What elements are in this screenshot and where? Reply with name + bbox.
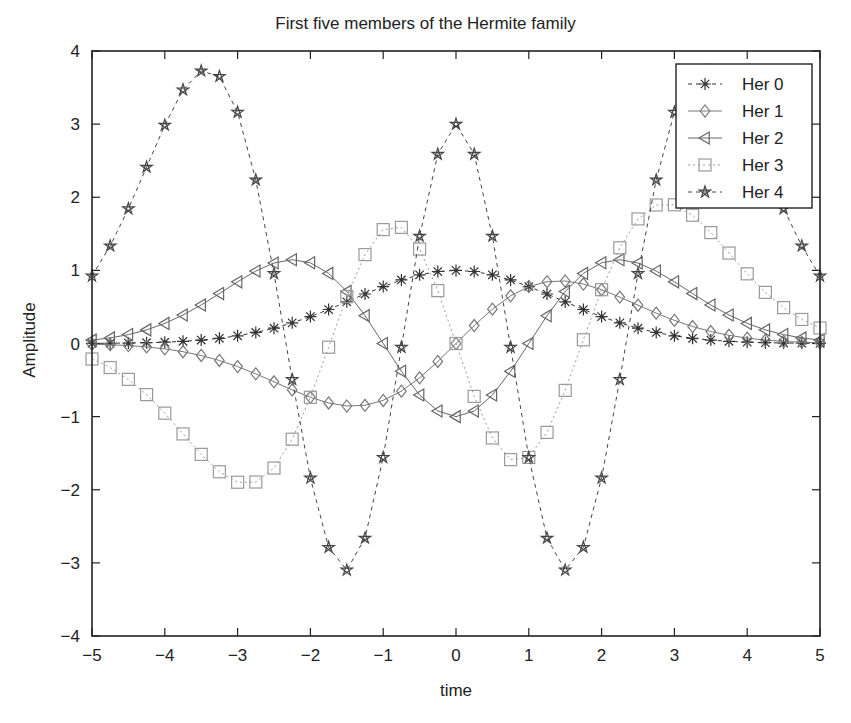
y-tick-label: −4 xyxy=(61,627,80,646)
x-tick-label: −1 xyxy=(374,646,393,665)
y-tick-label: 4 xyxy=(71,42,80,61)
x-tick-label: −3 xyxy=(228,646,247,665)
legend-label: Her 3 xyxy=(742,156,784,175)
x-tick-label: −2 xyxy=(301,646,320,665)
y-tick-label: −1 xyxy=(61,408,80,427)
x-tick-label: 1 xyxy=(524,646,533,665)
y-tick-label: 2 xyxy=(71,188,80,207)
x-tick-label: −5 xyxy=(82,646,101,665)
x-tick-label: 0 xyxy=(451,646,460,665)
y-tick-label: 0 xyxy=(71,335,80,354)
y-tick-label: −3 xyxy=(61,554,80,573)
x-tick-label: −4 xyxy=(155,646,174,665)
legend-label: Her 4 xyxy=(742,183,784,202)
legend-label: Her 0 xyxy=(742,75,784,94)
x-tick-label: 4 xyxy=(742,646,751,665)
x-tick-label: 3 xyxy=(670,646,679,665)
chart-canvas: −5−4−3−2−1012345−4−3−2−101234 Her 0Her 1… xyxy=(0,0,851,723)
y-tick-label: 3 xyxy=(71,115,80,134)
legend-label: Her 2 xyxy=(742,129,784,148)
legend: Her 0Her 1Her 2Her 3Her 4 xyxy=(676,64,812,208)
x-tick-label: 2 xyxy=(597,646,606,665)
y-tick-label: 1 xyxy=(71,261,80,280)
y-tick-label: −2 xyxy=(61,481,80,500)
legend-label: Her 1 xyxy=(742,102,784,121)
x-tick-label: 5 xyxy=(815,646,824,665)
